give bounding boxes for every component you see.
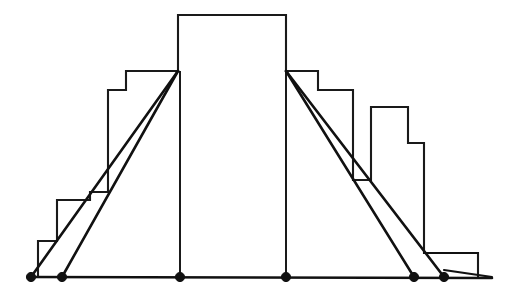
knot-point	[439, 272, 448, 281]
baseline-axis	[28, 277, 492, 278]
knot-point	[409, 272, 418, 281]
right-inner-tangent-line	[286, 71, 414, 277]
left-inner-tangent-line	[62, 71, 178, 277]
tangent-lines-group	[31, 71, 444, 277]
figure-container	[0, 0, 513, 299]
histogram-bars-outline	[38, 15, 478, 277]
right-lower-tail-line	[444, 270, 492, 277]
knot-point	[281, 272, 290, 281]
histogram-chart	[0, 0, 513, 299]
histogram-step-outline	[38, 15, 478, 277]
knot-point	[175, 272, 184, 281]
center-stems	[180, 71, 286, 277]
knot-point	[57, 272, 66, 281]
right-outer-tangent-line	[286, 71, 444, 277]
baseline-axis-group	[28, 277, 492, 278]
knot-point	[26, 272, 35, 281]
left-outer-tangent-line	[31, 71, 178, 277]
